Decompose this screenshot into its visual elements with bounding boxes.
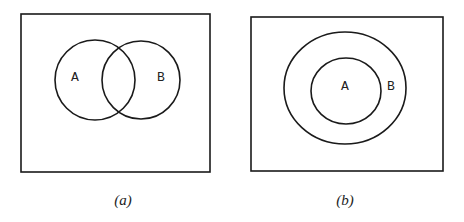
set-b-label: B <box>387 79 395 94</box>
caption-b: (b) <box>336 192 354 209</box>
diagram-a: A B (a) <box>21 14 210 209</box>
set-b-circle <box>102 41 180 119</box>
set-a-label: A <box>71 70 79 85</box>
set-a-label: A <box>341 79 349 94</box>
venn-diagrams: A B (a) A B (b) <box>0 0 464 222</box>
universe-rect-b <box>251 17 443 171</box>
set-a-circle <box>55 40 135 120</box>
universe-rect-a <box>21 14 210 172</box>
caption-a: (a) <box>114 192 132 209</box>
set-b-label: B <box>157 70 165 85</box>
diagram-b: A B (b) <box>251 17 443 209</box>
